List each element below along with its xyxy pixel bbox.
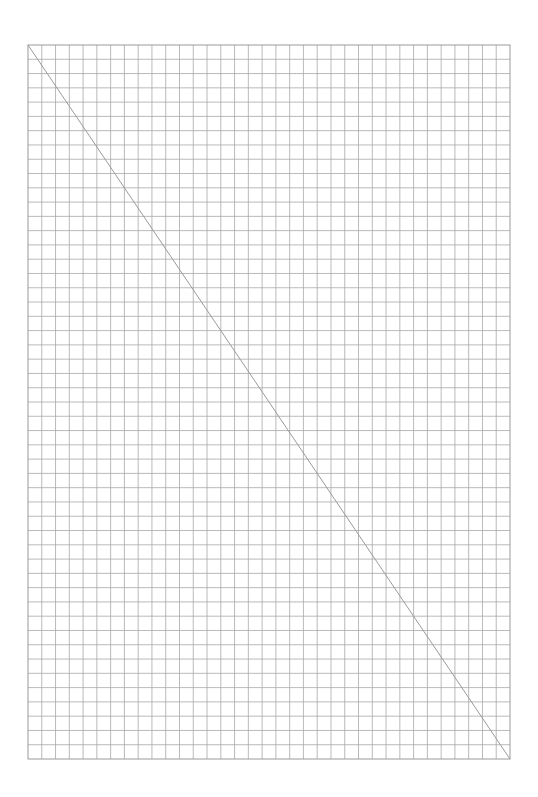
graph-paper-grid bbox=[0, 0, 538, 797]
